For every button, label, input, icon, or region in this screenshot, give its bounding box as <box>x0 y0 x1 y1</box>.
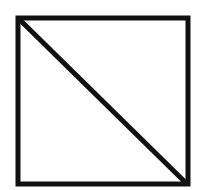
diagram-canvas <box>0 0 201 190</box>
diagonal-line <box>19 19 186 183</box>
